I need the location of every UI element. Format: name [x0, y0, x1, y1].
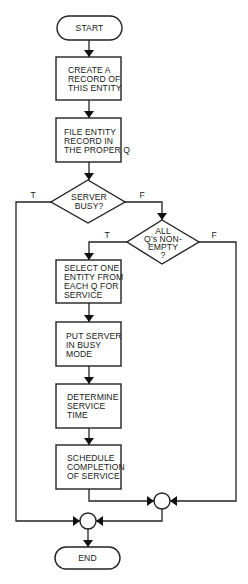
edges [16, 40, 236, 547]
edge-schedule-to-junction-1 [89, 489, 154, 501]
node-start: START [57, 16, 122, 40]
node-queues-line-4: ? [161, 250, 166, 260]
node-determine-service-time: DETERMINE SERVICE TIME [56, 384, 121, 428]
node-create-record: CREATE A RECORD OF THIS ENTITY [56, 57, 122, 100]
edge-junction-1-to-junction-2 [96, 509, 162, 521]
arrowhead-icon [84, 315, 94, 322]
edge-queues-false [170, 242, 236, 501]
node-schedule-line-3: OF SERVICE [67, 471, 120, 481]
node-select-entity-line-4: SERVICE [64, 290, 102, 300]
node-schedule-completion: SCHEDULE COMPLETION OF SERVICE [56, 445, 125, 489]
arrowhead-icon [83, 540, 93, 547]
node-queues-nonempty-decision: ALL Q's NON- EMPTY ? [127, 220, 199, 264]
node-server-busy-decision: SERVER BUSY? [51, 180, 125, 223]
branch-label-server-busy-false: F [139, 190, 144, 200]
junction-connector-1 [154, 493, 170, 509]
branch-label-queues-false: F [211, 230, 216, 240]
node-put-server-busy: PUT SERVER IN BUSY MODE [56, 322, 122, 366]
node-server-busy-line-2: BUSY? [75, 201, 104, 211]
edge-server-busy-false [125, 202, 162, 220]
edge-queues-true [89, 242, 127, 260]
junction-connector-2 [80, 513, 96, 529]
node-determine-line-3: TIME [67, 410, 88, 420]
node-select-entity: SELECT ONE ENTITY FROM EACH Q FOR SERVIC… [56, 260, 123, 303]
arrowhead-icon [157, 213, 167, 220]
branch-label-server-busy-true: T [30, 190, 36, 200]
node-end-text: END [78, 553, 96, 563]
arrowhead-icon [84, 253, 94, 260]
arrowhead-icon [84, 377, 94, 384]
node-create-record-line-3: THIS ENTITY [68, 83, 122, 93]
flowchart-diagram: T F T F START CREATE A RECORD OF THIS EN… [0, 0, 248, 584]
arrowhead-icon [84, 50, 94, 57]
branch-label-queues-true: T [104, 230, 110, 240]
arrowhead-icon [73, 516, 80, 526]
arrowhead-icon [96, 516, 103, 526]
arrowhead-icon [147, 496, 154, 506]
arrowhead-icon [84, 111, 94, 118]
node-start-text: START [76, 23, 105, 33]
arrowhead-icon [84, 173, 94, 180]
arrowhead-icon [170, 496, 177, 506]
node-file-record-line-3: THE PROPER Q [64, 145, 130, 155]
node-file-record: FILE ENTITY RECORD IN THE PROPER Q [56, 118, 130, 162]
node-end: END [55, 547, 120, 569]
arrowhead-icon [84, 438, 94, 445]
node-put-server-line-3: MODE [66, 349, 92, 359]
